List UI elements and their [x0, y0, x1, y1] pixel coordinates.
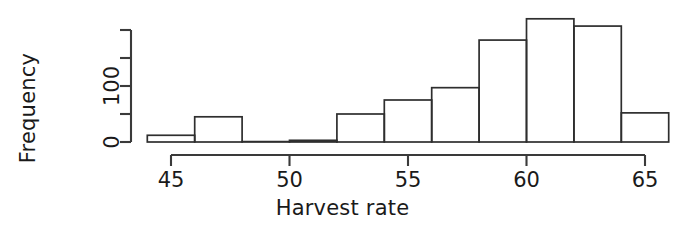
bar-62-64	[574, 26, 621, 142]
bar-46-48	[195, 117, 242, 142]
x-tick-label-55: 55	[395, 168, 422, 192]
bar-54-56	[384, 100, 431, 142]
bar-56-58	[432, 88, 479, 142]
bar-58-60	[479, 40, 526, 142]
x-tick-label-65: 65	[632, 168, 659, 192]
histogram-bars	[147, 19, 668, 142]
y-tick-label-100: 100	[100, 66, 124, 106]
y-tick-label-0: 0	[100, 135, 124, 148]
histogram-figure: 100 0 45 50	[0, 0, 685, 238]
x-tick-label-45: 45	[158, 168, 185, 192]
x-axis	[171, 155, 645, 166]
bar-64-66	[621, 113, 668, 142]
bar-52-54	[337, 114, 384, 142]
y-tick-labels: 100 0	[100, 66, 124, 149]
bar-60-62	[527, 19, 574, 142]
x-tick-label-60: 60	[513, 168, 540, 192]
x-tick-label-50: 50	[276, 168, 303, 192]
bar-44-46	[147, 135, 194, 142]
y-axis-title: Frequency	[16, 18, 40, 198]
bar-50-52	[290, 140, 337, 142]
x-axis-title: Harvest rate	[0, 196, 685, 220]
x-tick-labels: 45 50 55 60 65	[158, 168, 659, 192]
